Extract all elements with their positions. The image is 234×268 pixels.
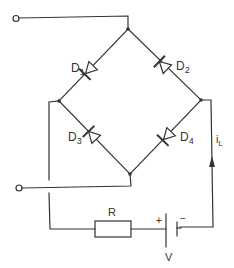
label-d2: D2 xyxy=(176,59,190,75)
terminal-bottom xyxy=(16,185,22,191)
wire-d1 xyxy=(59,29,128,101)
current-arrow-icon xyxy=(209,156,215,167)
label-current: iL xyxy=(216,133,223,148)
label-battery-plus: + xyxy=(156,215,162,226)
terminal-top xyxy=(13,16,19,22)
label-d3: D3 xyxy=(68,130,82,146)
bridge-circuit-diagram: D1 D2 D3 D4 iL R + − V xyxy=(0,0,234,268)
label-d4: D4 xyxy=(180,130,194,146)
node-top xyxy=(126,27,130,31)
label-battery-minus: − xyxy=(180,213,186,224)
wire-right-output xyxy=(180,100,213,227)
diode-d2-icon xyxy=(154,56,173,75)
resistor-r xyxy=(95,221,131,237)
wire-left-output-upper xyxy=(49,101,59,180)
label-resistor: R xyxy=(108,206,116,218)
wire-top-input xyxy=(19,16,128,29)
label-d1: D1 xyxy=(71,61,85,77)
node-bottom xyxy=(128,172,132,176)
wire-left-output-lower xyxy=(49,193,95,229)
label-battery: V xyxy=(165,251,173,263)
wire-bottom-input xyxy=(22,174,131,188)
